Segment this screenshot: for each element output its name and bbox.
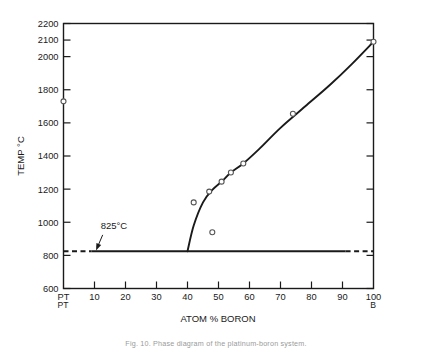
y-tick-label-600: 600 <box>43 284 59 294</box>
x-tick-label-60: 60 <box>244 292 254 302</box>
data-point-marker <box>61 99 66 104</box>
x-tick-label-70: 70 <box>275 292 285 302</box>
data-point-marker <box>219 179 224 184</box>
y-tick-label-1200: 1200 <box>38 185 59 195</box>
data-point-markers <box>61 39 376 234</box>
y-tick-label-1400: 1400 <box>38 151 59 161</box>
y-tick-label-1000: 1000 <box>38 218 59 228</box>
x-tick-label-40: 40 <box>182 292 192 302</box>
y-axis-tick-labels: 60080010001200140016001800200021002200 <box>38 19 59 294</box>
x-axis-tick-labels: PT102030405060708090100 <box>58 292 382 302</box>
x-axis-endpoint-label-b: B <box>370 300 376 310</box>
y-tick-label-2200: 2200 <box>38 19 59 29</box>
plot-axes-frame <box>64 24 374 289</box>
data-point-marker <box>371 39 376 44</box>
phase-diagram-figure: 60080010001200140016001800200021002200 P… <box>0 0 432 354</box>
liquidus-curve <box>188 42 374 252</box>
y-tick-label-2000: 2000 <box>38 52 59 62</box>
x-tick-label-80: 80 <box>306 292 316 302</box>
y-tick-label-800: 800 <box>43 251 59 261</box>
x-axis-endpoint-label-pt: PT <box>58 300 70 310</box>
data-point-marker <box>191 200 196 205</box>
x-axis-ticks <box>95 282 343 289</box>
x-tick-label-30: 30 <box>151 292 161 302</box>
annotation-arrow-825c <box>96 235 103 251</box>
data-point-marker <box>228 170 233 175</box>
annotation-arrow-head <box>96 243 101 250</box>
x-tick-label-90: 90 <box>337 292 347 302</box>
x-tick-label-20: 20 <box>120 292 130 302</box>
data-point-marker <box>290 111 295 116</box>
phase-diagram-plot: 60080010001200140016001800200021002200 P… <box>0 0 432 354</box>
y-tick-label-2100: 2100 <box>38 35 59 45</box>
data-point-marker <box>210 230 215 235</box>
data-point-marker <box>241 161 246 166</box>
x-tick-label-10: 10 <box>89 292 99 302</box>
x-tick-label-50: 50 <box>213 292 223 302</box>
y-axis-title: TEMP °C <box>15 136 26 176</box>
x-axis-title: ATOM % BORON <box>180 313 255 324</box>
y-axis-ticks <box>64 24 374 289</box>
y-tick-label-1800: 1800 <box>38 85 59 95</box>
annotation-label-825c: 825°C <box>101 220 128 231</box>
y-tick-label-1600: 1600 <box>38 118 59 128</box>
data-point-marker <box>207 189 212 194</box>
figure-caption: Fig. 10. Phase diagram of the platinum-b… <box>0 339 432 352</box>
